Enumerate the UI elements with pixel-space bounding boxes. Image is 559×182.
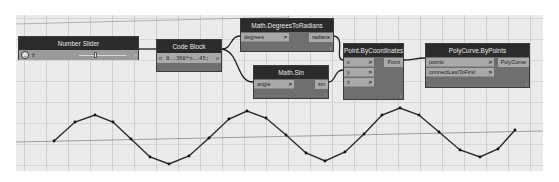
slider-row: ⌄ 8 > <box>19 50 138 60</box>
lacing-indicator[interactable]: l <box>330 46 331 51</box>
code-editor[interactable]: n 0..360*n..45; > <box>157 53 221 63</box>
code-text[interactable]: 0..360*n..45; <box>166 55 209 61</box>
port-label: degrees <box>244 34 264 40</box>
input-port-n[interactable]: n <box>159 53 162 63</box>
node-title: Math.Sin <box>254 66 328 79</box>
port-label: z <box>347 79 350 85</box>
input-port-connect-last-to-first[interactable]: connectLastToFirst > <box>426 68 494 77</box>
port-arrow-icon: > <box>368 78 372 87</box>
slider-thumb[interactable] <box>94 52 97 58</box>
port-label: x <box>347 59 350 65</box>
lacing-indicator[interactable]: l <box>526 82 527 87</box>
input-port-y[interactable]: y > <box>344 68 374 77</box>
node-title: Math.DegreesToRadians <box>241 19 333 32</box>
port-label: points <box>429 59 444 65</box>
port-arrow-icon: > <box>488 68 492 77</box>
output-port-sin[interactable]: sin <box>315 80 328 89</box>
output-port-arrow-icon[interactable]: > <box>216 53 219 63</box>
output-port-arrow-icon[interactable]: > <box>134 51 137 59</box>
input-port-points[interactable]: points > <box>426 58 494 67</box>
port-arrow-icon: > <box>368 68 372 77</box>
port-label: y <box>347 69 350 75</box>
output-port-radians[interactable]: radians <box>309 33 333 42</box>
node-title: Number Slider <box>19 37 138 50</box>
lacing-indicator[interactable]: l <box>325 93 326 98</box>
input-port-degrees[interactable]: degrees > <box>241 33 289 42</box>
input-port-z[interactable]: z > <box>344 78 374 87</box>
degrees-to-radians-node[interactable]: Math.DegreesToRadians degrees > radians … <box>240 18 334 52</box>
number-slider-node[interactable]: Number Slider ⌄ 8 > <box>18 36 139 60</box>
math-sin-node[interactable]: Math.Sin angle > sin l <box>253 65 329 99</box>
node-title: Code Block <box>157 40 221 53</box>
slider-value[interactable]: 8 <box>32 50 35 60</box>
port-arrow-icon: > <box>368 58 372 67</box>
polycurve-by-points-node[interactable]: PolyCurve.ByPoints points > connectLastT… <box>425 43 530 88</box>
port-arrow-icon: > <box>283 33 287 42</box>
lacing-indicator[interactable]: l <box>400 94 401 99</box>
input-port-angle[interactable]: angle > <box>254 80 294 89</box>
point-by-coordinates-node[interactable]: Point.ByCoordinates x > y > z > Point l <box>343 43 404 100</box>
port-arrow-icon: > <box>488 58 492 67</box>
slider-track[interactable] <box>79 55 126 56</box>
input-port-x[interactable]: x > <box>344 58 374 67</box>
code-block-node[interactable]: Code Block n 0..360*n..45; > <box>156 39 222 72</box>
port-label: connectLastToFirst <box>429 69 475 75</box>
node-title: PolyCurve.ByPoints <box>426 44 529 57</box>
node-title: Point.ByCoordinates <box>344 44 403 57</box>
expand-chevron-icon[interactable]: ⌄ <box>21 51 29 59</box>
port-arrow-icon: > <box>288 80 292 89</box>
output-port-point[interactable]: Point <box>384 58 403 67</box>
output-port-polycurve[interactable]: PolyCurve <box>498 58 529 67</box>
port-label: angle <box>257 81 270 87</box>
